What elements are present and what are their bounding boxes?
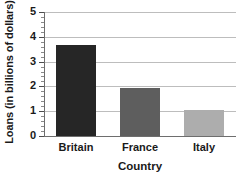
bar-france [120, 88, 160, 136]
y-tick-label-text: 0 [10, 130, 36, 141]
bar-italy [184, 110, 224, 136]
x-tick-label-britain: Britain [44, 140, 108, 154]
x-tick-label-france: France [108, 140, 172, 154]
plot-area [44, 12, 236, 136]
y-tick-label: 3 [0, 56, 36, 67]
y-axis-title: Loans (in billions of dollars) [1, 0, 17, 147]
y-tick-label: 4 [0, 31, 36, 42]
y-tick-label-text: 3 [10, 56, 36, 67]
y-tick-label-text: 5 [10, 6, 36, 17]
gridline [44, 12, 236, 13]
y-tick-label: 2 [0, 80, 36, 91]
x-tick-label-italy: Italy [172, 140, 236, 154]
x-axis-title: Country [44, 159, 236, 173]
y-tick-label: 0 [0, 130, 36, 141]
bar-chart: Loans (in billions of dollars) 012345 Br… [0, 0, 242, 179]
y-tick-label-text: 1 [10, 105, 36, 116]
x-axis-line [44, 136, 236, 137]
bar-britain [56, 45, 96, 136]
gridline [44, 37, 236, 38]
y-tick-label-text: 2 [10, 80, 36, 91]
y-tick-label: 1 [0, 105, 36, 116]
y-tick-label-text: 4 [10, 31, 36, 42]
y-tick-label: 5 [0, 6, 36, 17]
y-axis-line [44, 12, 45, 137]
